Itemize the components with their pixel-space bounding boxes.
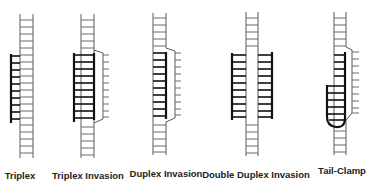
duplex-rungs [81, 20, 94, 155]
label-triplex: Triplex [5, 170, 36, 181]
label-duplex-invasion: Duplex Invasion [130, 168, 203, 179]
label-tail-clamp: Tail-Clamp [318, 165, 366, 176]
clamping-strand [327, 52, 345, 127]
displaced-strand-stubs [352, 52, 359, 113]
invading-strands [74, 53, 94, 122]
nucleic-acid-structures-diagram [0, 0, 371, 187]
triplex-invasion-structure [74, 14, 109, 158]
left-invading-strand [232, 53, 246, 120]
tail-clamp-structure [327, 12, 359, 155]
duplex-rungs [153, 18, 166, 152]
duplex-invasion-structure [153, 13, 181, 155]
third-strand [11, 54, 20, 123]
right-invading-strand [258, 52, 272, 119]
displaced-strand-stubs [103, 55, 109, 117]
label-double-duplex-invasion: Double Duplex Invasion [202, 169, 310, 180]
duplex-rungs [20, 20, 33, 153]
double-duplex-invasion-structure [232, 12, 272, 156]
triplex-structure [11, 14, 33, 158]
invading-strand [153, 52, 166, 119]
displaced-strand-stubs [175, 53, 181, 115]
duplex-rungs [246, 18, 258, 153]
label-triplex-invasion: Triplex Invasion [52, 170, 124, 181]
